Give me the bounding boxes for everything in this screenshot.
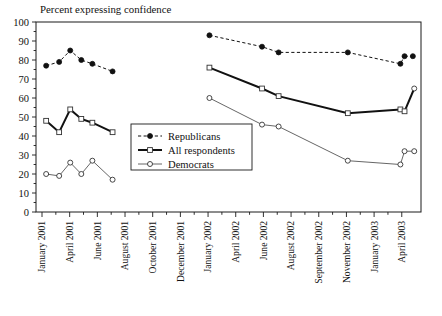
data-point (260, 44, 265, 49)
y-tick-label: 10 (19, 188, 30, 199)
data-point (276, 50, 281, 55)
x-tick-label: January 2001 (36, 221, 47, 273)
data-point (345, 111, 350, 116)
series-line-tail (405, 89, 415, 112)
data-point (79, 172, 84, 177)
x-tick-label: April 2001 (64, 221, 75, 263)
x-tick-label: January 2003 (369, 221, 380, 273)
y-tick-label: 40 (19, 131, 30, 142)
data-point (68, 160, 73, 165)
data-point (90, 158, 95, 163)
y-tick-label: 60 (19, 93, 30, 104)
data-point (207, 33, 212, 38)
data-point (44, 172, 49, 177)
x-tick-label: April 2003 (396, 221, 407, 263)
series-line (209, 35, 404, 64)
legend-label: Republicans (168, 131, 220, 142)
data-point (402, 54, 407, 59)
chart-title: Percent expressing confidence (40, 3, 172, 15)
x-tick-label: June 2001 (92, 221, 103, 260)
data-point (57, 59, 62, 64)
data-point (79, 117, 84, 122)
x-tick-label: October 2001 (147, 221, 158, 274)
data-point (68, 107, 73, 112)
data-point (110, 69, 115, 74)
data-point (260, 86, 265, 91)
data-point (276, 124, 281, 129)
y-tick-label: 50 (19, 112, 30, 123)
legend-marker-icon (148, 148, 153, 153)
x-tick-label: June 2002 (258, 221, 269, 260)
data-point (412, 149, 417, 154)
y-tick-label: 30 (19, 150, 30, 161)
data-point (90, 120, 95, 125)
legend-label: All respondents (168, 145, 235, 156)
data-point (412, 86, 417, 91)
y-axis: 1009080706050403020100 (13, 17, 36, 218)
data-point (410, 54, 415, 59)
data-point (79, 58, 84, 63)
chart-container: Percent expressing confidence 1009080706… (0, 0, 442, 316)
chart-legend: RepublicansAll respondentsDemocrats (131, 124, 252, 170)
y-tick-label: 20 (19, 169, 30, 180)
data-point (402, 149, 407, 154)
x-tick-label: August 2002 (285, 221, 296, 271)
y-tick-label: 100 (13, 17, 29, 28)
y-tick-label: 70 (19, 74, 30, 85)
data-point (44, 63, 49, 68)
series-republicans (44, 33, 416, 74)
y-tick-label: 0 (24, 207, 29, 218)
data-point (207, 96, 212, 101)
data-point (57, 130, 62, 135)
plot-frame (36, 22, 421, 212)
x-tick-label: January 2002 (202, 221, 213, 273)
y-tick-label: 80 (19, 55, 30, 66)
data-point (398, 61, 403, 66)
data-point (260, 122, 265, 127)
data-point (402, 109, 407, 114)
data-point (110, 177, 115, 182)
data-point (398, 162, 403, 167)
x-axis: January 2001April 2001June 2001August 20… (36, 212, 407, 284)
series-line (209, 68, 404, 114)
y-tick-label: 90 (19, 36, 30, 47)
x-tick-label: November 2002 (341, 221, 352, 283)
legend-marker-icon (148, 134, 153, 139)
data-point (345, 158, 350, 163)
data-point (44, 118, 49, 123)
series-line (46, 161, 112, 180)
data-point (276, 94, 281, 99)
data-point (207, 65, 212, 70)
legend-marker-icon (148, 162, 153, 167)
x-tick-label: April 2002 (230, 221, 241, 263)
legend-label: Democrats (168, 159, 214, 170)
x-tick-label: December 2001 (175, 221, 186, 282)
x-tick-label: August 2001 (119, 221, 130, 271)
data-point (68, 48, 73, 53)
data-point (345, 50, 350, 55)
data-point (110, 130, 115, 135)
data-point (90, 61, 95, 66)
confidence-line-chart: Percent expressing confidence 1009080706… (0, 0, 442, 316)
x-tick-label: September 2002 (313, 221, 324, 284)
data-point (57, 173, 62, 178)
